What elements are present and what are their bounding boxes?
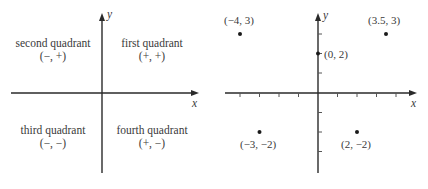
right-x-arrow-icon (409, 90, 417, 96)
right-x-axis-label: x (411, 97, 416, 110)
left-x-axis-label: x (192, 97, 197, 110)
point-label: (−3, −2) (240, 138, 276, 150)
third-quadrant-label: third quadrant (−, −) (18, 124, 88, 150)
fourth-quadrant-label: fourth quadrant (+, −) (113, 124, 191, 150)
point-0-2 (316, 52, 320, 56)
point-2-neg2 (355, 130, 359, 134)
quadrant-name: third quadrant (18, 124, 88, 137)
point-label: (3.5, 3) (368, 14, 400, 26)
right-y-axis-label: y (323, 9, 328, 22)
quadrant-signs: (+, +) (116, 50, 188, 63)
quadrant-signs: (+, −) (113, 137, 191, 150)
point-label: (−4, 3) (224, 14, 254, 26)
point-label: (2, −2) (341, 138, 371, 150)
second-quadrant-label: second quadrant (−, +) (14, 37, 92, 63)
quadrant-name: first quadrant (116, 37, 188, 50)
left-x-arrow-icon (191, 90, 199, 96)
point-label: (0, 2) (324, 48, 348, 60)
left-y-axis-label: y (107, 8, 112, 21)
point-neg3-neg2 (258, 130, 262, 134)
quadrant-name: fourth quadrant (113, 124, 191, 137)
quadrant-signs: (−, −) (18, 137, 88, 150)
quadrant-signs: (−, +) (14, 50, 92, 63)
first-quadrant-label: first quadrant (+, +) (116, 37, 188, 63)
right-y-arrow-icon (315, 13, 321, 21)
point-3.5-3 (384, 32, 388, 36)
point-neg4-3 (238, 32, 242, 36)
diagram-canvas (0, 0, 428, 189)
quadrant-name: second quadrant (14, 37, 92, 50)
left-y-arrow-icon (99, 13, 105, 21)
plotted-points (238, 32, 388, 134)
